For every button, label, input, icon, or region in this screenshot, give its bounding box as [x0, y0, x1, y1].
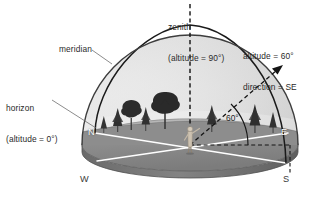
figure-celestial-dome: zenith (altitude = 90°) altitude = 60° d… — [0, 0, 323, 200]
label-altitude-angle: 60° — [226, 113, 239, 123]
label-horizon-line1: horizon — [6, 103, 58, 113]
figure-caption — [0, 193, 323, 200]
label-horizon-line2: (altitude = 0°) — [6, 134, 58, 144]
label-zenith-line2: (altitude = 90°) — [168, 53, 224, 63]
label-cardinal-west: W — [80, 174, 89, 184]
label-altitude-value: altitude = 60° — [243, 51, 297, 61]
label-meridian: meridian — [59, 44, 92, 54]
label-horizon: horizon (altitude = 0°) — [6, 83, 58, 165]
label-zenith-line1: zenith — [168, 22, 224, 32]
label-zenith: zenith (altitude = 90°) — [168, 2, 224, 84]
label-direction-value: direction = SE — [243, 82, 297, 92]
label-cardinal-south: S — [283, 174, 289, 184]
leader-meridian — [92, 50, 112, 64]
label-cardinal-east: E — [281, 127, 287, 137]
label-cardinal-north: N — [88, 127, 95, 137]
label-altitude-direction: altitude = 60° direction = SE — [243, 31, 297, 113]
